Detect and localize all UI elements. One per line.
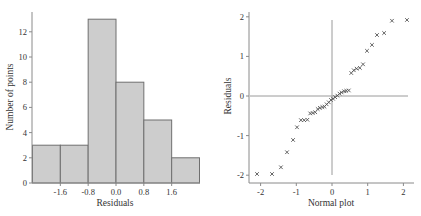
normal-plot-x-axis-title: Normal plot [308, 198, 355, 208]
x-tick-label: 0.0 [111, 187, 122, 197]
histogram-x-axis-title: Residuals [97, 198, 134, 208]
x-marker-icon [390, 19, 394, 23]
x-tick-label: -1 [293, 187, 300, 197]
normal-plot-x-ticks: -2-1012 [257, 183, 405, 197]
chart-canvas: 024681012 -1.6-0.80.00.81.6 Residuals Nu… [0, 0, 421, 216]
x-marker-icon [405, 18, 409, 22]
histogram-bar [144, 120, 172, 183]
x-marker-icon [299, 118, 303, 122]
x-tick-label: -1.6 [54, 187, 67, 197]
x-marker-icon [370, 43, 374, 47]
histogram-bar [60, 145, 88, 183]
x-marker-icon [291, 138, 295, 142]
x-tick-label: 0 [330, 187, 334, 197]
normal-plot-chart: -2-1012 -2-1012 Normal plot Residuals [223, 12, 414, 208]
normal-plot-y-axis-title: Residuals [223, 77, 233, 114]
x-marker-icon [306, 118, 310, 122]
histogram-chart: 024681012 -1.6-0.80.00.81.6 Residuals Nu… [5, 12, 200, 208]
y-tick-label: 2 [23, 153, 27, 163]
x-marker-icon [295, 125, 299, 129]
x-tick-label: 0.8 [139, 187, 150, 197]
x-marker-icon [382, 31, 386, 35]
y-tick-label: 12 [19, 27, 28, 37]
x-marker-icon [302, 118, 306, 122]
x-tick-label: -2 [257, 187, 264, 197]
y-tick-label: 1 [240, 51, 244, 61]
x-marker-icon [358, 66, 362, 70]
y-tick-label: 2 [240, 12, 244, 22]
y-tick-label: -1 [237, 131, 244, 141]
x-tick-label: -0.8 [81, 187, 94, 197]
x-marker-icon [365, 49, 369, 53]
histogram-y-axis-title: Number of points [5, 63, 15, 130]
x-tick-label: 1.6 [166, 187, 177, 197]
x-marker-icon [279, 165, 283, 169]
x-tick-label: 2 [401, 187, 405, 197]
x-marker-icon [270, 172, 274, 176]
histogram-y-ticks: 024681012 [19, 27, 33, 188]
y-tick-label: 10 [19, 52, 28, 62]
y-tick-label: 4 [23, 128, 28, 138]
histogram-bar [33, 145, 61, 183]
x-tick-label: 1 [366, 187, 370, 197]
histogram-bar [172, 158, 200, 183]
y-tick-label: 8 [23, 77, 27, 87]
histogram-x-ticks: -1.6-0.80.00.81.6 [54, 183, 177, 197]
histogram-bar [116, 82, 144, 183]
histogram-bar [88, 19, 116, 183]
histogram-bars [33, 19, 200, 183]
normal-plot-y-ticks: -2-1012 [237, 12, 249, 180]
x-marker-icon [255, 172, 259, 176]
x-marker-icon [375, 33, 379, 37]
x-marker-icon [285, 150, 289, 154]
x-marker-icon [347, 89, 351, 93]
y-tick-label: 0 [240, 91, 244, 101]
y-tick-label: 0 [23, 178, 27, 188]
y-tick-label: 6 [23, 102, 27, 112]
x-marker-icon [361, 63, 365, 67]
y-tick-label: -2 [237, 170, 244, 180]
